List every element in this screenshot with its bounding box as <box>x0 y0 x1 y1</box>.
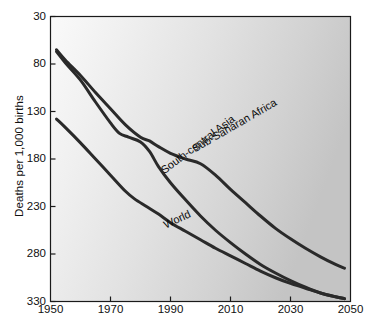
chart-figure: Deaths per 1,000 births 3302802301801308… <box>0 0 367 326</box>
plot-area <box>0 0 367 326</box>
